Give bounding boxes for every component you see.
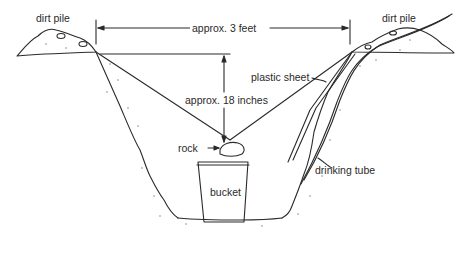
solar-still-diagram [0,0,468,258]
left-dirt-pile [17,29,96,56]
depth-dimension-label: approx. 18 inches [183,94,270,106]
plastic-sheet-label: plastic sheet [251,71,309,83]
dirt-pile-right-label: dirt pile [382,12,416,24]
bucket-label: bucket [210,186,241,198]
dirt-pile-left-label: dirt pile [36,12,70,24]
width-dimension-label: approx. 3 feet [190,22,258,34]
rock-label: rock [178,142,198,154]
hole-left-wall [96,52,178,218]
rock [220,142,244,156]
drinking-tube-label: drinking tube [315,164,375,176]
